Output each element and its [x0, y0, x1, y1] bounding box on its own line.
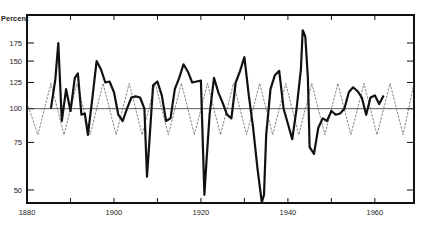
y-tick-label: 150	[9, 57, 22, 66]
line-chart: 5075100125150175 18801900192019401960 Pe…	[0, 0, 423, 225]
y-axis-left: 5075100125150175	[9, 39, 34, 195]
y-tick-label: 175	[9, 39, 22, 48]
x-tick-label: 1900	[106, 208, 123, 217]
y-tick-label: 50	[14, 186, 22, 195]
observed-series-line	[51, 30, 384, 202]
x-tick-label: 1920	[193, 208, 210, 217]
y-axis-title: Percent	[1, 14, 29, 23]
y-tick-label: 100	[9, 104, 22, 113]
x-tick-label: 1880	[19, 208, 36, 217]
y-tick-label: 75	[14, 138, 22, 147]
y-tick-label: 125	[9, 78, 22, 87]
x-tick-label: 1960	[367, 208, 384, 217]
y-axis-right	[407, 43, 414, 190]
x-tick-label: 1940	[280, 208, 297, 217]
